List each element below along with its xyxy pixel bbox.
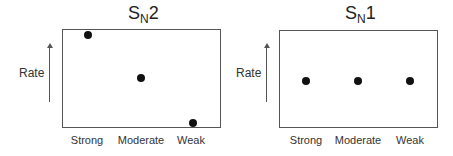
sn2-point-moderate: [137, 74, 145, 82]
sn2-title-main: S: [128, 3, 140, 23]
sn1-x-tick-strong: Strong: [290, 134, 322, 146]
sn2-x-tick-moderate: Moderate: [118, 134, 164, 146]
sn2-title-subscript: N: [140, 12, 149, 26]
sn2-up-arrow-icon: [49, 47, 50, 102]
sn1-title-subscript: N: [357, 12, 366, 26]
sn2-title-suffix: 2: [149, 3, 159, 23]
sn1-title-main: S: [345, 3, 357, 23]
sn1-title-suffix: 1: [366, 3, 376, 23]
sn2-x-tick-strong: Strong: [71, 134, 103, 146]
sn2-point-strong: [84, 31, 92, 39]
sn1-x-tick-moderate: Moderate: [335, 134, 381, 146]
sn2-title: SN2: [128, 3, 159, 26]
sn1-y-axis-label: Rate: [236, 66, 261, 80]
sn1-point-strong: [302, 77, 310, 85]
sn1-up-arrow-icon: [266, 47, 267, 102]
sn1-title: SN1: [345, 3, 376, 26]
sn1-point-weak: [406, 77, 414, 85]
sn2-point-weak: [189, 119, 197, 127]
sn2-x-tick-weak: Weak: [177, 134, 205, 146]
sn1-point-moderate: [354, 77, 362, 85]
sn1-x-tick-weak: Weak: [396, 134, 424, 146]
sn2-y-axis-label: Rate: [19, 66, 44, 80]
